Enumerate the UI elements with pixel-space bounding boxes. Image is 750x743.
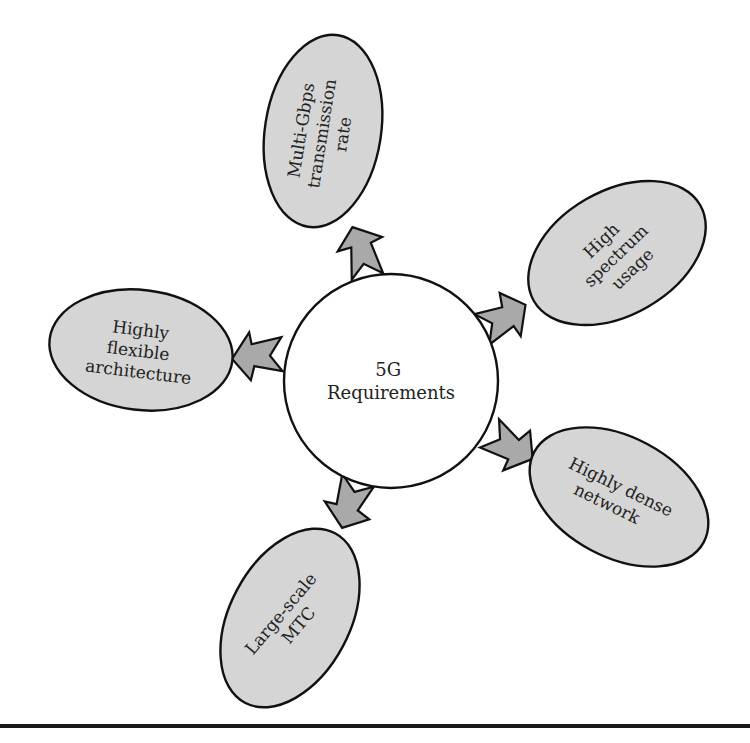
node-large-scale-mtc: Large-scale MTC — [192, 505, 388, 731]
node-flexible-architecture: Highly flexible architecture — [42, 279, 239, 421]
hub-label-line: Requirements — [327, 382, 455, 403]
divider-rule — [0, 724, 750, 728]
node-multi-gbps: Multi-Gbps transmission rate — [251, 26, 396, 236]
arrow-to-flexible-architecture — [231, 331, 283, 381]
arrow-icon — [231, 331, 283, 381]
arrow-icon — [335, 223, 388, 281]
node-ellipse — [192, 505, 388, 731]
hub-node: 5G Requirements — [284, 274, 498, 488]
node-ellipse — [506, 399, 732, 595]
node-dense-network: Highly dense network — [506, 399, 732, 595]
arrow-to-multi-gbps — [335, 223, 388, 281]
5g-requirements-diagram: 5G Requirements Multi-Gbps transmission … — [0, 0, 750, 743]
hub-label-line: 5G — [375, 359, 401, 380]
hub-circle — [284, 274, 498, 488]
node-high-spectrum: High spectrum usage — [503, 151, 731, 354]
